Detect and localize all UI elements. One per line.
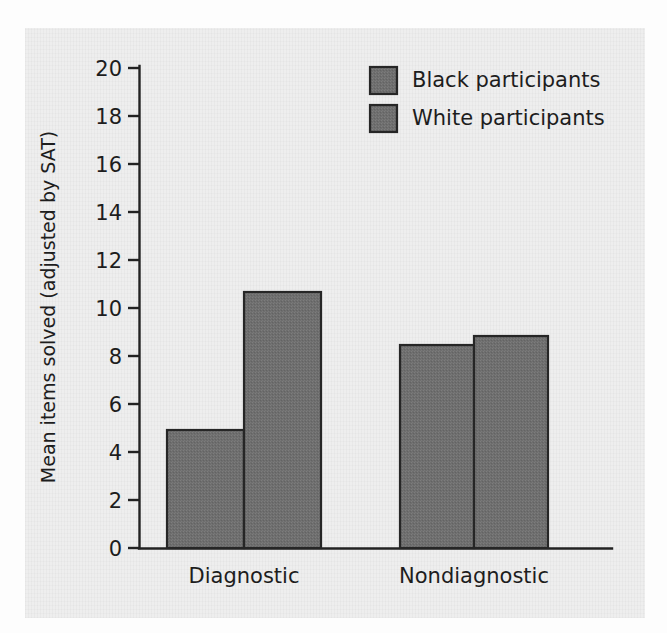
- legend-label-black-participants: Black participants: [412, 68, 600, 92]
- y-tick-label-8: 8: [109, 345, 122, 369]
- bar-white-diagnostic: [244, 292, 321, 548]
- legend-swatch-white-participants: [370, 105, 397, 132]
- bar-chart: 20 18 16 14 12 10 8 6 4 2 0 Mean items s…: [0, 0, 667, 633]
- y-tick-label-6: 6: [109, 393, 122, 417]
- y-tick-label-20: 20: [95, 57, 122, 81]
- legend: Black participants White participants: [370, 67, 605, 132]
- y-tick-label-12: 12: [95, 249, 122, 273]
- y-tick-label-18: 18: [95, 105, 122, 129]
- legend-entry-white-participants: White participants: [370, 105, 605, 132]
- figure-root: 20 18 16 14 12 10 8 6 4 2 0 Mean items s…: [0, 0, 667, 633]
- y-tick-label-2: 2: [109, 489, 122, 513]
- y-tick-label-14: 14: [95, 201, 122, 225]
- legend-entry-black-participants: Black participants: [370, 67, 600, 94]
- bar-black-nondiagnostic: [400, 345, 474, 548]
- y-tick-label-4: 4: [109, 441, 122, 465]
- legend-swatch-black-participants: [370, 67, 397, 94]
- y-tick-label-16: 16: [95, 153, 122, 177]
- bar-white-nondiagnostic: [474, 336, 548, 548]
- y-tick-label-0: 0: [109, 537, 122, 561]
- x-tick-label-nondiagnostic: Nondiagnostic: [399, 564, 549, 588]
- legend-label-white-participants: White participants: [412, 106, 605, 130]
- y-tick-label-10: 10: [95, 297, 122, 321]
- y-tick-labels: 20 18 16 14 12 10 8 6 4 2 0: [95, 57, 122, 561]
- y-axis-title: Mean items solved (adjusted by SAT): [37, 131, 59, 483]
- x-tick-label-diagnostic: Diagnostic: [189, 564, 300, 588]
- bar-black-diagnostic: [167, 430, 244, 548]
- y-tick-marks: [128, 68, 139, 548]
